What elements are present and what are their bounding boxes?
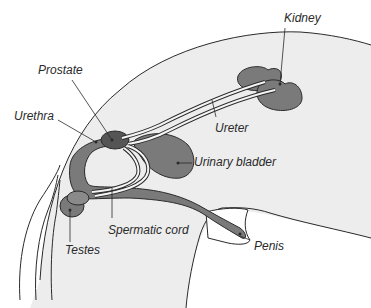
label-kidney: Kidney — [284, 12, 321, 24]
urogenital-diagram: Kidney Prostate Urethra Ureter Urinary b… — [0, 0, 371, 308]
label-ureter: Ureter — [215, 122, 248, 134]
label-penis: Penis — [254, 240, 284, 252]
label-testes: Testes — [65, 244, 100, 256]
label-spermatic-cord: Spermatic cord — [108, 224, 189, 236]
label-urinary-bladder: Urinary bladder — [194, 156, 276, 168]
prostate-shape — [101, 131, 129, 149]
label-prostate: Prostate — [38, 64, 83, 76]
label-urethra: Urethra — [14, 110, 54, 122]
anatomy-illustration — [0, 0, 371, 308]
